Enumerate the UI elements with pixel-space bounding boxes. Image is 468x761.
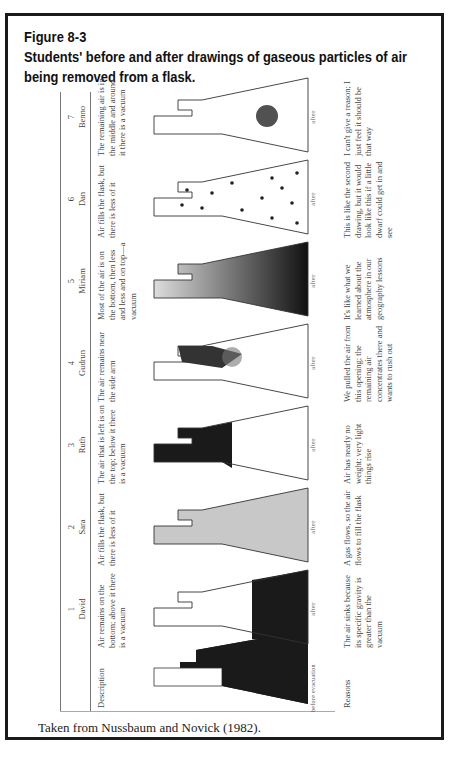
figure-caption: Taken from Nussbaum and Novick (1982). xyxy=(38,720,261,736)
student-reason: The air sinks because its specific gravi… xyxy=(342,568,384,648)
figure-label: Figure 8-3 xyxy=(24,28,87,45)
after-label: after xyxy=(310,486,316,568)
student-name: Dan xyxy=(77,158,88,240)
student-description: The remaining air is in the middle and a… xyxy=(96,76,128,156)
row-label-reasons: Reasons xyxy=(342,680,352,708)
column-header-student: 4Gudrun xyxy=(66,322,88,404)
student-number: 3 xyxy=(66,404,77,486)
student-description: Air remains on the bottom; above it ther… xyxy=(96,568,128,648)
student-reason: A gas flows, so the air flows to fill th… xyxy=(342,486,363,566)
column-header-student: 2Sara xyxy=(66,486,88,568)
student-name: Ruth xyxy=(77,404,88,486)
student-reason: Air has nearly no weight; very light thi… xyxy=(342,404,374,484)
student-name: Miriam xyxy=(77,240,88,322)
header-rule xyxy=(90,92,91,712)
student-name: Sara xyxy=(77,486,88,568)
column-header-student: 3Ruth xyxy=(66,404,88,486)
flask-after-drawing xyxy=(152,568,310,648)
flask-after-drawing xyxy=(152,322,310,402)
table-top-rule xyxy=(60,92,61,712)
student-number: 1 xyxy=(66,568,77,650)
student-name: David xyxy=(77,568,88,650)
student-description: The air remains near the side arm xyxy=(96,322,117,402)
student-number: 4 xyxy=(66,322,77,404)
student-description: Most of the air is on the bottom, then l… xyxy=(96,240,138,320)
student-number: 5 xyxy=(66,240,77,322)
after-label: after xyxy=(310,322,316,404)
student-description: The air that is left is on the top; belo… xyxy=(96,404,128,484)
student-description: Air fills the flask, but there is less o… xyxy=(96,158,117,238)
student-reason: It's like what we learned about the atmo… xyxy=(342,240,384,320)
after-label: after xyxy=(310,404,316,486)
student-name: Gudrun xyxy=(77,322,88,404)
after-label: after xyxy=(310,568,316,650)
student-reason: I can't give a reason; I just feel it sh… xyxy=(342,76,374,156)
flask-after-drawing xyxy=(152,486,310,566)
column-header-student: 5Miriam xyxy=(66,240,88,322)
student-number: 2 xyxy=(66,486,77,568)
after-label: after xyxy=(310,76,316,158)
flask-after-drawing xyxy=(152,404,310,484)
flask-after-drawing xyxy=(152,158,310,238)
student-number: 6 xyxy=(66,158,77,240)
column-header-student: 1David xyxy=(66,568,88,650)
row-label-description: Description xyxy=(96,668,106,708)
student-name: Benno xyxy=(77,76,88,158)
student-description: Air fills the flask, but there is less o… xyxy=(96,486,117,566)
after-label: after xyxy=(310,240,316,322)
student-reason: This is like the second drawing, but it … xyxy=(342,158,395,238)
left-rule xyxy=(60,711,335,712)
student-number: 7 xyxy=(66,76,77,158)
student-reason: We pulled the air from this opening; the… xyxy=(342,322,395,402)
rotated-figure-table: Description Reasons before evacuation 1D… xyxy=(60,92,426,712)
flask-after-drawing xyxy=(152,240,310,320)
column-header-student: 7Benno xyxy=(66,76,88,158)
column-header-student: 6Dan xyxy=(66,158,88,240)
after-label: after xyxy=(310,158,316,240)
before-evacuation-label: before evacuation xyxy=(310,664,316,712)
flask-after-drawing xyxy=(152,76,310,156)
